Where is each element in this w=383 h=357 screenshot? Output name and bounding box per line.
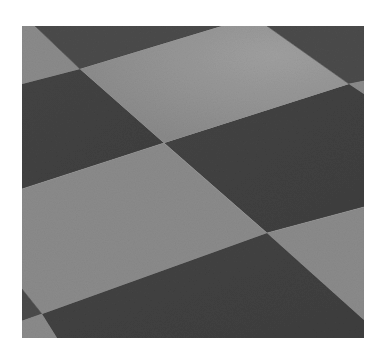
checkerboard-render <box>22 26 364 338</box>
checkerboard-svg <box>22 26 364 338</box>
tile-group <box>22 26 364 338</box>
